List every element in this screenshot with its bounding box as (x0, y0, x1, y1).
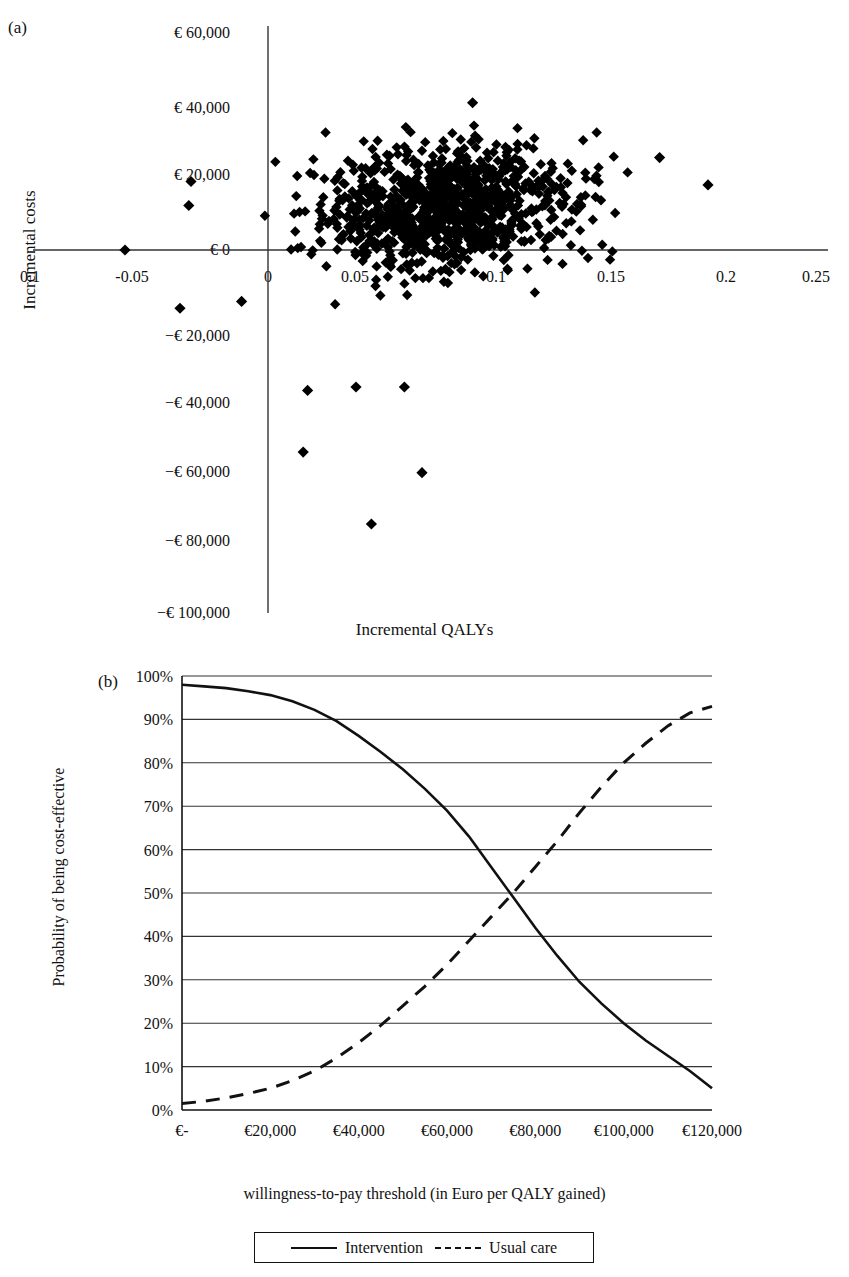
dashed-line-icon (435, 1247, 481, 1249)
panel-b-gridlines (182, 676, 712, 1067)
legend-label-intervention: Intervention (345, 1239, 423, 1257)
panel-b-ytick-4: 40% (144, 928, 173, 945)
panel-b-plot-area: 0%10%20%30%40%50%60%70%80%90%100% €-€20,… (0, 0, 849, 1277)
chart-legend: Intervention Usual care (254, 1232, 594, 1263)
panel-b-xtick-1: €20,000 (244, 1122, 296, 1139)
curve-usual-care (182, 706, 712, 1103)
panel-b-ytick-6: 60% (144, 842, 173, 859)
panel-b-ytick-1: 10% (144, 1059, 173, 1076)
panel-b-xtick-0: €- (175, 1122, 188, 1139)
panel-b-ytick-8: 80% (144, 755, 173, 772)
panel-b-xtick-6: €120,000 (682, 1122, 742, 1139)
panel-b-ytick-7: 70% (144, 798, 173, 815)
legend-label-usual-care: Usual care (489, 1239, 557, 1257)
panel-b-xtick-4: €80,000 (509, 1122, 561, 1139)
legend-entry-intervention: Intervention (291, 1239, 423, 1257)
panel-b-ytick-0: 0% (152, 1102, 173, 1119)
panel-b-xtick-2: €40,000 (333, 1122, 385, 1139)
panel-b-xtick-5: €100,000 (594, 1122, 654, 1139)
solid-line-icon (291, 1247, 337, 1249)
figure-page: (a) Incremental costs Incremental QALYs … (0, 0, 849, 1277)
panel-b-xtick-3: €60,000 (421, 1122, 473, 1139)
panel-b-ytick-5: 50% (144, 885, 173, 902)
panel-b-ytick-2: 20% (144, 1015, 173, 1032)
panel-b-ytick-3: 30% (144, 972, 173, 989)
legend-entry-usual-care: Usual care (435, 1239, 557, 1257)
curve-intervention (182, 685, 712, 1089)
panel-b-ytick-10: 100% (136, 668, 173, 685)
panel-b-y-tick-labels: 0%10%20%30%40%50%60%70%80%90%100% (136, 668, 173, 1119)
panel-b-ytick-9: 90% (144, 711, 173, 728)
panel-b-x-tick-labels: €-€20,000€40,000€60,000€80,000€100,000€1… (175, 1122, 742, 1139)
